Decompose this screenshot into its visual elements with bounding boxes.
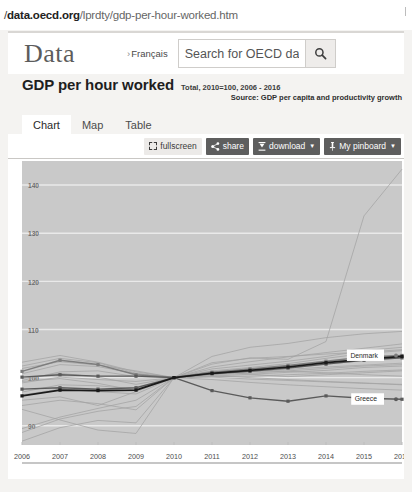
language-link[interactable]: ›Français [127,48,168,59]
series-marker [96,363,99,366]
plot-background [22,161,402,445]
x-tick-label: 2008 [90,452,106,461]
chevron-down-icon: ▼ [390,143,396,149]
fullscreen-icon [149,142,157,150]
series-marker [58,359,61,362]
share-icon [211,142,220,151]
y-tick-label: 110 [28,327,39,334]
indicator-title-row: GDP per hour worked Total, 2010=100, 200… [22,76,280,93]
series-marker [210,372,213,375]
series-marker [96,389,99,392]
url-domain: data.oecd.org [7,9,80,21]
indicator-subtitle: Total, 2010=100, 2006 - 2016 [181,83,280,92]
series-end-dot [394,353,398,357]
series-marker [286,400,289,403]
url-path: /lprdty/gdp-per-hour-worked.htm [80,9,238,21]
y-tick-label: 140 [28,182,39,189]
download-button[interactable]: download ▼ [253,138,320,155]
search-button[interactable] [306,39,336,68]
series-marker [324,394,327,397]
pinboard-label: My pinboard [339,141,386,151]
chevron-right-icon: › [127,48,130,59]
x-tick-label: 2006 [14,452,30,461]
series-end-dot [394,397,398,401]
series-marker [20,370,23,373]
download-icon [258,142,266,151]
series-marker [20,376,23,379]
x-tick-label: 2010 [166,452,182,461]
tab-table[interactable]: Table [114,115,162,136]
series-marker [96,375,99,378]
series-marker [134,389,137,392]
chart-panel: fullscreen share [8,134,404,479]
browser-url-bar[interactable]: /data.oecd.org/lprdty/gdp-per-hour-worke… [0,0,412,30]
series-marker [248,396,251,399]
browser-page: /data.oecd.org/lprdty/gdp-per-hour-worke… [0,0,412,492]
page-left-margin [0,31,8,479]
series-marker [58,373,61,376]
search-icon [314,47,327,60]
series-marker [400,355,403,358]
x-tick-label: 2015 [356,452,372,461]
language-label: Français [131,48,167,59]
source-label: Source: GDP per capita and productivity … [231,93,402,102]
series-marker [248,369,251,372]
chevron-down-icon: ▼ [309,143,315,149]
series-marker [20,388,23,391]
x-tick-label: 2016 [394,452,404,461]
series-marker [400,398,403,401]
series-marker [134,375,137,378]
share-button[interactable]: share [206,138,249,155]
search-form [178,39,336,68]
series-label: Greece [355,395,378,402]
x-tick-label: 2014 [318,452,334,461]
x-tick-label: 2012 [242,452,258,461]
tab-map[interactable]: Map [71,115,114,136]
url-text: /data.oecd.org/lprdty/gdp-per-hour-worke… [0,9,238,21]
series-marker [324,361,327,364]
x-tick-label: 2007 [52,452,68,461]
line-chart: 90100110120130140DenmarkGreece2006200720… [8,159,404,479]
page-title: GDP per hour worked [22,76,174,93]
series-label: Denmark [350,352,378,359]
chart-plot-area[interactable]: 90100110120130140DenmarkGreece2006200720… [8,158,404,479]
series-marker [210,389,213,392]
pin-icon [329,142,336,151]
site-header: Data ›Français [8,31,404,74]
series-marker [286,365,289,368]
x-tick-label: 2013 [280,452,296,461]
site-brand[interactable]: Data [24,41,75,67]
fullscreen-label: fullscreen [160,141,196,151]
y-tick-label: 120 [28,279,39,286]
search-input[interactable] [178,39,306,68]
page-right-margin [404,31,412,479]
series-marker [20,394,23,397]
chart-toolbar: fullscreen share [8,134,404,158]
series-marker [58,389,61,392]
download-label: download [269,141,305,151]
series-marker [172,376,175,379]
view-tabs: Chart Map Table [22,112,163,136]
x-tick-label: 2009 [128,452,144,461]
url-bar-tick [405,7,406,16]
pinboard-button[interactable]: My pinboard ▼ [324,138,401,155]
y-tick-label: 130 [28,230,39,237]
fullscreen-button[interactable]: fullscreen [144,138,201,155]
share-label: share [223,141,244,151]
tab-chart[interactable]: Chart [22,115,71,136]
page-footer-strip [0,479,412,492]
x-tick-label: 2011 [204,452,219,461]
